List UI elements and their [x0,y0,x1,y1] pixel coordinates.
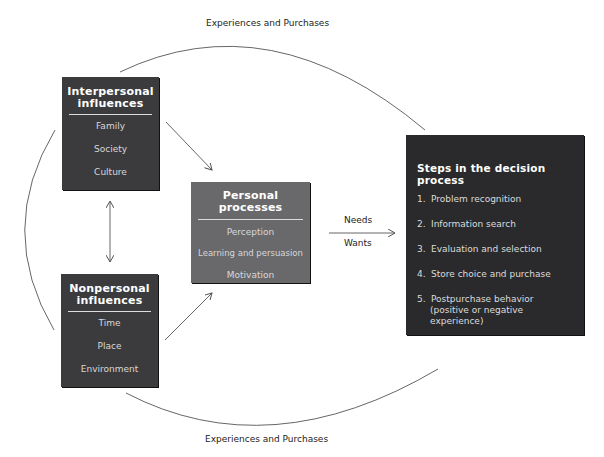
interpersonal-item: Society [62,140,159,158]
step-number: 4. [417,269,431,280]
personal-process-item: Motivation [191,264,310,286]
decision-steps-title: Steps in the decision process [417,162,576,186]
top-arc-label: Experiences and Purchases [206,18,329,28]
decision-step: 5. Postpurchase behavior (positive or ne… [417,294,576,327]
needs-label: Needs [344,215,372,225]
step-text: Store choice and purchase [431,269,551,280]
nonpersonal-item: Environment [61,360,158,378]
divider [198,219,303,220]
decision-step: 4. Store choice and purchase [417,269,576,280]
decision-steps-list: 1. Problem recognition 2. Information se… [417,194,576,327]
step-text: Postpurchase behavior [431,294,576,305]
step-number: 5. [417,294,431,327]
wants-label: Wants [344,238,372,248]
personal-process-item: Perception [191,222,310,242]
arrow-interpersonal-to-personal [166,122,212,170]
nonpersonal-influences-box: Nonpersonal influences Time Place Enviro… [61,274,158,387]
bottom-arc-label: Experiences and Purchases [205,434,328,444]
arrow-nonpersonal-to-personal [165,293,212,340]
decision-step: 1. Problem recognition [417,194,576,205]
personal-processes-title: Personal processes [191,190,310,214]
interpersonal-item: Family [62,117,159,135]
step-text-block: Postpurchase behavior (positive or negat… [431,294,576,327]
interpersonal-influences-box: Interpersonal influences Family Society … [62,77,159,190]
bottom-feedback-arc [126,369,438,425]
step-number: 3. [417,244,431,255]
nonpersonal-title-line2: influences [61,295,158,307]
divider [69,114,152,115]
decision-step: 2. Information search [417,219,576,230]
decision-steps-box: Steps in the decision process 1. Problem… [406,135,584,335]
step-number: 1. [417,194,431,205]
step-text: Problem recognition [431,194,521,205]
left-feedback-arc [25,130,55,330]
step-text: Evaluation and selection [431,244,542,255]
nonpersonal-item: Time [61,314,158,332]
personal-process-item: Learning and persuasion [191,242,310,264]
decision-step: 3. Evaluation and selection [417,244,576,255]
nonpersonal-item: Place [61,337,158,355]
divider [68,311,151,312]
step-number: 2. [417,219,431,230]
step-text-sub: (positive or negative experience) [430,305,576,327]
interpersonal-title-line2: influences [62,98,159,110]
personal-processes-box: Personal processes Perception Learning a… [191,182,310,283]
top-feedback-arc [120,46,425,130]
step-text: Information search [431,219,516,230]
interpersonal-item: Culture [62,163,159,181]
